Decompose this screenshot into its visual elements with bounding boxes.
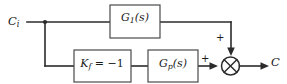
kf-label-suffix: = −1 <box>91 57 123 70</box>
arrow-into-sum-top <box>227 48 235 57</box>
input-label-base: C <box>8 14 17 28</box>
gp-label-base: G <box>159 57 168 70</box>
block-label-g1: G1(s) <box>112 12 158 25</box>
branch-point-dot <box>43 20 47 24</box>
gp-label-suffix: (s) <box>173 57 187 70</box>
input-label-subscript: i <box>17 19 20 29</box>
output-label-base: C <box>271 55 280 69</box>
arrow-output <box>261 62 270 70</box>
block-diagram-canvas: Ci C G1(s) Kf = −1 Gp(s) + + <box>0 0 287 84</box>
block-label-gp: Gp(s) <box>150 58 196 71</box>
sign-top-input: + <box>216 33 224 43</box>
block-label-kf: Kf = −1 <box>76 58 128 71</box>
g1-label-suffix: (s) <box>135 11 149 24</box>
arrow-into-sum-left <box>210 62 219 70</box>
g1-label-base: G <box>121 11 130 24</box>
input-terminal-label: Ci <box>8 16 19 29</box>
sign-left-input: + <box>201 54 209 64</box>
output-terminal-label: C <box>271 57 280 69</box>
